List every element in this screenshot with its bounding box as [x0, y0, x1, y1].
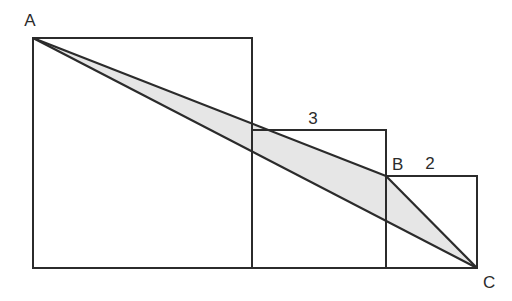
figure-svg: A B C 3 2: [0, 0, 512, 301]
label-side-3: 3: [308, 109, 317, 128]
segment-ab: [33, 38, 386, 176]
vertex-label-b: B: [392, 155, 403, 174]
vertex-label-c: C: [483, 273, 495, 292]
geometry-diagram: A B C 3 2: [0, 0, 512, 301]
label-side-2: 2: [425, 154, 434, 173]
large-square: [33, 38, 252, 268]
vertex-label-a: A: [24, 11, 36, 30]
segment-ac: [33, 38, 477, 268]
